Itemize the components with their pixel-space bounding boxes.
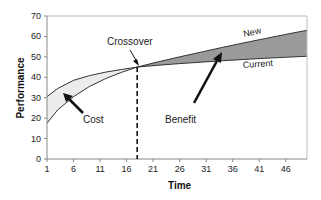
crossover-label: Crossover: [107, 36, 153, 47]
cost-arrow: [68, 98, 83, 113]
x-tick-label: 36: [228, 164, 238, 174]
x-tick-label: 21: [148, 164, 158, 174]
x-tick-label: 41: [254, 164, 264, 174]
y-tick-label: 50: [31, 52, 41, 62]
x-tick-label: 11: [95, 164, 104, 174]
benefit-area: [137, 30, 307, 67]
y-tick-label: 30: [31, 93, 41, 103]
x-tick-label: 46: [281, 164, 291, 174]
current-series-label: Current: [242, 58, 273, 70]
crossover-arrowhead-icon: [133, 59, 139, 66]
x-axis-title: Time: [168, 180, 192, 191]
cost-label: Cost: [83, 114, 104, 125]
new-series-label: New: [242, 25, 262, 39]
x-tick-label: 6: [71, 164, 76, 174]
y-axis-title: Performance: [15, 57, 26, 119]
x-tick-label: 26: [175, 164, 185, 174]
benefit-arrow: [194, 59, 218, 103]
x-tick-label: 1: [44, 164, 49, 174]
y-tick-label: 40: [31, 72, 41, 82]
y-tick-label: 60: [31, 31, 41, 41]
y-tick-label: 20: [31, 113, 41, 123]
performance-chart: 010203040506070161116212631364146 Crosso…: [0, 0, 321, 200]
y-tick-label: 70: [31, 11, 41, 21]
benefit-label: Benefit: [165, 114, 196, 125]
y-tick-label: 0: [36, 154, 41, 164]
y-tick-label: 10: [31, 134, 41, 144]
x-tick-label: 31: [201, 164, 211, 174]
x-tick-label: 16: [122, 164, 132, 174]
